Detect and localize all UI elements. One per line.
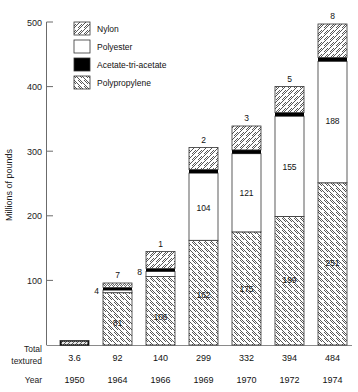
total-value-1966: 140 xyxy=(153,353,168,363)
bar-segment-acetate-1969 xyxy=(189,170,218,174)
bar-segment-nylon-1970 xyxy=(232,126,261,150)
legend-swatch-polyester-icon xyxy=(74,40,90,53)
bar-group-1972[interactable]: 199 155 5 xyxy=(275,74,304,346)
bar-value-polypropylene-1966: 106 xyxy=(153,312,167,322)
bar-segment-polypropylene-1966 xyxy=(146,277,175,346)
total-value-1964: 92 xyxy=(112,353,122,363)
y-tick-label-200: 200 xyxy=(27,211,42,221)
legend-item-acetate-tri-acetate[interactable]: Acetate-tri-acetate xyxy=(74,58,167,71)
legend-label-polyester: Polyester xyxy=(97,42,133,52)
y-tick-label-500: 500 xyxy=(27,18,42,28)
bar-top-value-1970: 3 xyxy=(244,113,249,123)
bar-segment-acetate-1970 xyxy=(232,150,261,154)
bar-segment-acetate-1972 xyxy=(275,113,304,117)
bar-value-polypropylene-1964: 81 xyxy=(113,318,123,328)
bar-value-polyester-1974: 188 xyxy=(325,116,339,126)
legend-swatch-polypropylene-icon xyxy=(74,76,90,89)
bar-group-1970[interactable]: 175 121 3 xyxy=(232,113,261,345)
y-axis: 500 400 300 200 100 Millions of pounds xyxy=(4,18,53,346)
bar-group-1974[interactable]: 251 188 8 xyxy=(318,11,347,345)
stacked-bar-chart: 500 400 300 200 100 Millions of pounds N… xyxy=(0,0,358,392)
bar-segment-acetate-1974 xyxy=(318,58,347,62)
year-value-1969: 1969 xyxy=(193,375,213,385)
bar-segment-acetate-1966 xyxy=(146,268,175,271)
footer-rows: Total textured Year 3.6 92 140 299 332 3… xyxy=(11,344,342,385)
y-tick-label-100: 100 xyxy=(27,276,42,286)
bar-segment-nylon-1969 xyxy=(189,148,218,170)
total-value-1969: 299 xyxy=(196,353,211,363)
y-axis-title: Millions of pounds xyxy=(4,148,14,221)
bar-segment-nylon-1972 xyxy=(275,87,304,113)
bar-segment-polyester-1964 xyxy=(103,290,132,293)
bar-group-1950[interactable] xyxy=(60,341,89,346)
year-row-label: Year xyxy=(25,375,42,385)
year-value-1950: 1950 xyxy=(64,375,84,385)
legend: Nylon Polyester Acetate-tri-acetate Poly… xyxy=(74,22,167,89)
total-value-1970: 332 xyxy=(239,353,254,363)
bar-group-1964[interactable]: 81 7 4 xyxy=(94,270,132,345)
bar-value-polyester-1970: 121 xyxy=(239,188,253,198)
legend-label-nylon: Nylon xyxy=(97,24,119,34)
legend-swatch-nylon-icon xyxy=(74,22,90,35)
bar-group-1969[interactable]: 162 104 2 xyxy=(189,135,218,346)
total-textured-label-line1: Total xyxy=(24,344,42,354)
total-value-1950: 3.6 xyxy=(68,353,81,363)
year-value-1966: 1966 xyxy=(150,375,170,385)
bar-value-polypropylene-1972: 199 xyxy=(282,275,296,285)
y-tick-label-300: 300 xyxy=(27,147,42,157)
bar-segment-nylon-1966 xyxy=(146,252,175,269)
bar-side-value-1966: 8 xyxy=(137,267,142,277)
bar-segment-nylon-1974 xyxy=(318,24,347,58)
legend-item-nylon[interactable]: Nylon xyxy=(74,22,119,35)
bar-top-value-1964: 7 xyxy=(115,270,120,280)
year-value-1974: 1974 xyxy=(322,375,342,385)
year-value-1970: 1970 xyxy=(236,375,256,385)
bar-value-polyester-1969: 104 xyxy=(196,203,210,213)
bar-value-polypropylene-1974: 251 xyxy=(325,258,339,268)
y-tick-label-400: 400 xyxy=(27,82,42,92)
bar-group-1966[interactable]: 106 1 8 xyxy=(137,239,175,346)
bar-top-value-1966: 1 xyxy=(158,239,163,249)
bar-top-value-1974: 8 xyxy=(330,11,335,21)
bar-top-value-1972: 5 xyxy=(287,74,292,84)
bar-segment-nylon-1964 xyxy=(103,283,132,288)
total-textured-label-line2: textured xyxy=(11,356,42,366)
bar-top-value-1969: 2 xyxy=(201,135,206,145)
total-value-1972: 394 xyxy=(282,353,297,363)
year-value-1972: 1972 xyxy=(279,375,299,385)
bar-side-value-1964: 4 xyxy=(94,286,99,296)
bar-value-polypropylene-1970: 175 xyxy=(239,284,253,294)
legend-label-polypropylene: Polypropylene xyxy=(97,78,151,88)
legend-swatch-acetate-icon xyxy=(74,58,90,71)
year-value-1964: 1964 xyxy=(107,375,127,385)
legend-label-acetate-tri-acetate: Acetate-tri-acetate xyxy=(97,60,167,70)
legend-item-polyester[interactable]: Polyester xyxy=(74,40,133,53)
total-value-1974: 484 xyxy=(325,353,340,363)
bar-segment-acetate-texture-1950 xyxy=(62,342,88,345)
bar-value-polyester-1972: 155 xyxy=(282,162,296,172)
legend-item-polypropylene[interactable]: Polypropylene xyxy=(74,76,151,89)
bar-value-polypropylene-1969: 162 xyxy=(196,290,210,300)
bar-segment-polyester-1966 xyxy=(146,271,175,276)
